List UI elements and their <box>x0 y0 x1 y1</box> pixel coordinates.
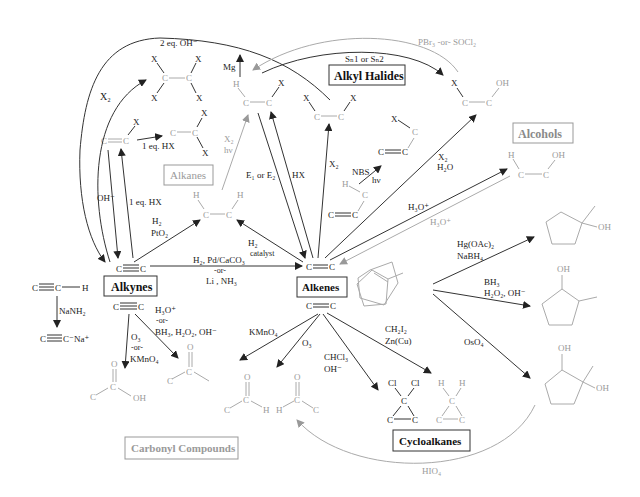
svg-text:C: C <box>387 415 393 425</box>
svg-text:H: H <box>276 405 283 415</box>
svg-text:C: C <box>167 376 173 386</box>
arrow-o3 <box>277 314 320 367</box>
svg-text:OH: OH <box>133 393 146 403</box>
svg-text:X: X <box>201 108 208 118</box>
category-carbonyl-compounds[interactable]: Carbonyl Compounds <box>125 437 238 459</box>
svg-text:C: C <box>378 147 384 157</box>
arrow-hx <box>271 112 313 258</box>
svg-text:C: C <box>306 301 312 311</box>
svg-text:C: C <box>436 415 442 425</box>
svg-text:O: O <box>187 342 194 352</box>
label-h2-cat-b: catalyst <box>250 249 275 258</box>
molecule-alkyl-halide: H C C X <box>233 78 285 108</box>
molecule-vinyl-halide: C C X <box>101 117 140 146</box>
svg-text:X: X <box>151 93 158 103</box>
label-hgoac-b: NaBH₄ <box>457 251 483 261</box>
svg-text:C: C <box>313 405 319 415</box>
molecule-methylcyclopentanol-a: OH <box>546 206 611 244</box>
label-mg: Mg <box>223 62 236 72</box>
svg-text:X: X <box>451 78 458 88</box>
svg-text:C: C <box>449 396 455 406</box>
svg-text:C: C <box>518 170 524 180</box>
molecule-alkene-top: C C <box>306 262 335 272</box>
svg-text:C: C <box>243 395 249 405</box>
category-alkenes[interactable]: Alkenes <box>297 277 347 297</box>
svg-text:X: X <box>151 54 158 64</box>
svg-text:C⁻: C⁻ <box>63 334 74 344</box>
svg-text:X: X <box>196 93 203 103</box>
svg-text:H: H <box>459 378 466 388</box>
label-chcl3-a: CHCl₃ <box>324 352 348 362</box>
svg-text:H: H <box>508 150 515 160</box>
svg-text:C: C <box>203 210 209 220</box>
label-x2-hv-b: hν <box>224 145 233 155</box>
svg-text:C: C <box>243 98 249 108</box>
category-alkanes-label: Alkanes <box>170 169 206 181</box>
label-h3o-a: H₃O⁺ <box>408 202 429 212</box>
molecule-cyclopropane: H H C C C <box>436 378 466 425</box>
svg-text:C: C <box>459 415 465 425</box>
label-oso4: OsO₄ <box>464 337 484 347</box>
label-lindlar-c: Li , NH₃ <box>206 276 237 286</box>
category-alkynes[interactable]: Alkynes <box>104 276 157 296</box>
label-h3o-alkyne-a: H₃O⁺ <box>155 305 176 315</box>
label-e1-e2: E₁ or E₂ <box>246 170 275 180</box>
svg-text:C: C <box>138 302 144 312</box>
label-bh3-a: BH₃ <box>484 277 500 287</box>
svg-text:O: O <box>244 372 251 382</box>
label-hgoac-a: Hg(OAc)₂ <box>457 239 494 249</box>
label-1eq-hx-top: 1 eq. HX <box>142 141 175 151</box>
svg-text:Na⁺: Na⁺ <box>74 334 89 344</box>
svg-text:H: H <box>82 283 89 293</box>
label-o3-c: KMnO₄ <box>130 354 159 364</box>
arrow-kmno4 <box>240 314 318 360</box>
category-alcohols[interactable]: Alcohols <box>513 123 573 143</box>
svg-text:C: C <box>314 112 320 122</box>
label-pto2: PtO₂ <box>151 228 168 238</box>
category-cycloalkanes[interactable]: Cycloalkanes <box>393 430 470 451</box>
category-alkyl-halides-label: Alkyl Halides <box>334 69 404 83</box>
svg-text:C: C <box>352 210 358 220</box>
label-lindlar-b: -or- <box>214 266 226 275</box>
svg-text:OH: OH <box>558 343 571 353</box>
svg-text:C: C <box>329 262 335 272</box>
category-alkanes[interactable]: Alkanes <box>164 165 213 185</box>
svg-text:OH: OH <box>598 222 611 232</box>
label-h2-cat-a: H₂ <box>248 238 258 248</box>
label-nanh2: NaNH₂ <box>59 306 86 316</box>
arrow-ch2i2 <box>327 313 431 373</box>
category-alkynes-label: Alkynes <box>111 280 153 294</box>
svg-text:X: X <box>278 78 285 88</box>
svg-text:H: H <box>263 405 270 415</box>
svg-text:C: C <box>123 136 129 146</box>
svg-text:OH: OH <box>557 264 570 274</box>
category-alkyl-halides[interactable]: Alkyl Halides <box>329 65 405 85</box>
svg-text:C: C <box>224 405 230 415</box>
label-nbs: NBS <box>352 167 370 177</box>
svg-text:OH: OH <box>596 383 609 393</box>
svg-text:C: C <box>186 367 192 377</box>
svg-text:C: C <box>186 73 192 83</box>
label-oh-minus: OH⁻ <box>97 193 115 203</box>
label-chcl3-b: OH⁻ <box>324 364 342 374</box>
label-1eq-hx-side: 1 eq. HX <box>129 197 162 207</box>
molecule-alkyne-bottom: C C <box>113 302 144 312</box>
molecule-terminal-alkyne: C C H <box>32 283 89 293</box>
svg-text:Cl: Cl <box>388 378 397 388</box>
molecule-propene: H C C C <box>328 179 368 220</box>
label-x2-h2o-b: H₂O <box>437 162 454 172</box>
label-ch2i2-b: Zn(Cu) <box>385 336 412 346</box>
label-x2-mid: X₂ <box>329 159 339 169</box>
molecule-acetylide: C C⁻ Na⁺ <box>40 334 89 344</box>
label-kmno4: KMnO₄ <box>249 327 278 337</box>
svg-text:C: C <box>328 210 334 220</box>
arrow-h2-pto2 <box>134 220 200 262</box>
svg-text:C: C <box>362 190 368 200</box>
molecule-aldehyde-pair: O C C H H O C C <box>224 372 319 415</box>
svg-text:C: C <box>116 264 122 274</box>
label-2eq-oh: 2 eq. OH⁻ <box>160 38 198 48</box>
svg-text:H: H <box>438 378 445 388</box>
label-hio4: HIO₄ <box>422 466 441 476</box>
label-ch2i2-a: CH₂I₂ <box>385 324 407 334</box>
arrow-oso4 <box>433 294 530 378</box>
